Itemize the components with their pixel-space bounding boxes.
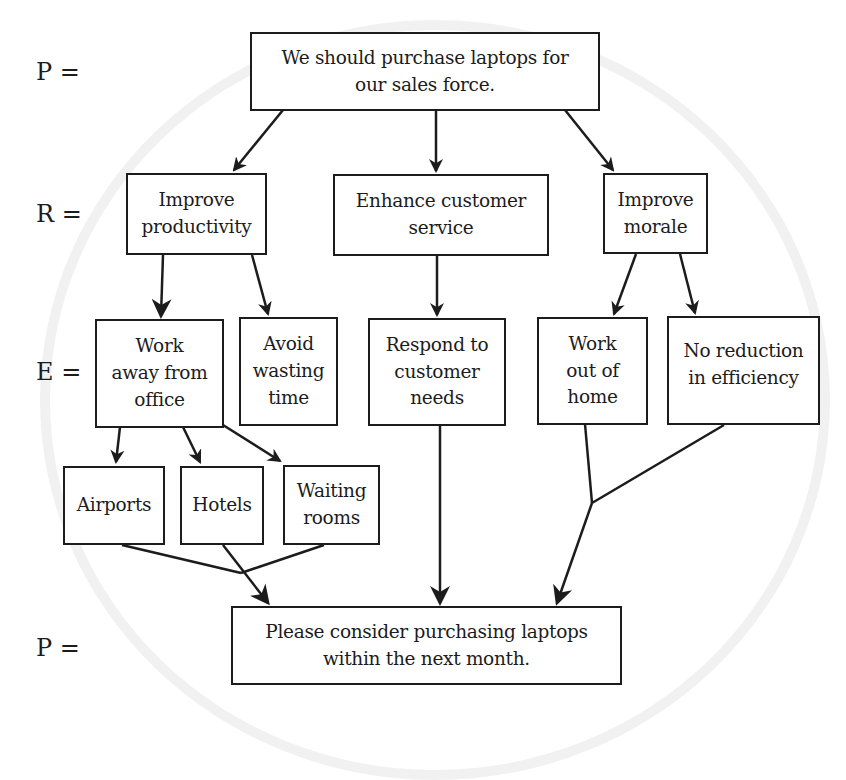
edge-waiting-to-junction: [241, 545, 324, 573]
node-sub-waiting-rooms: Waiting rooms: [283, 465, 380, 545]
edge-morale-to-no-reduction: [680, 254, 695, 313]
node-reason-morale-text: Improve morale: [618, 187, 694, 241]
row-label-premise-top: P =: [36, 58, 80, 86]
node-sub-waiting-rooms-text: Waiting rooms: [297, 478, 366, 532]
row-label-reasons: R =: [36, 200, 82, 228]
edge-work-away-to-waiting: [223, 425, 280, 461]
edge-junction-to-conclusion: [557, 503, 592, 603]
node-evidence-avoid-waste: Avoid wasting time: [239, 317, 338, 426]
node-conclusion: Please consider purchasing laptops withi…: [231, 606, 622, 685]
node-main-point-text: We should purchase laptops for our sales…: [281, 45, 568, 99]
node-reason-service-text: Enhance customer service: [356, 188, 526, 242]
node-evidence-work-away-text: Work away from office: [112, 333, 208, 413]
node-evidence-work-away: Work away from office: [95, 319, 224, 428]
node-reason-service: Enhance customer service: [333, 174, 549, 256]
edge-work-away-to-airports: [116, 427, 120, 462]
node-evidence-no-reduction: No reduction in efficiency: [667, 316, 820, 425]
edge-work-away-to-hotels: [183, 427, 200, 462]
node-evidence-work-home-text: Work out of home: [566, 331, 619, 411]
edge-morale-to-work-home: [614, 254, 636, 314]
node-sub-airports: Airports: [63, 466, 165, 545]
node-evidence-avoid-waste-text: Avoid wasting time: [253, 331, 324, 411]
node-sub-hotels: Hotels: [180, 466, 264, 545]
row-label-evidence: E =: [36, 358, 81, 386]
node-reason-productivity: Improve productivity: [126, 173, 267, 255]
node-evidence-respond: Respond to customer needs: [368, 318, 506, 426]
node-sub-hotels-text: Hotels: [192, 492, 251, 519]
edge-hotels-to-conclusion: [223, 545, 268, 603]
row-label-premise-bottom: P =: [36, 634, 80, 662]
edge-work-home-to-junction: [585, 424, 592, 503]
node-sub-airports-text: Airports: [77, 492, 151, 519]
node-evidence-no-reduction-text: No reduction in efficiency: [684, 338, 804, 392]
edge-no-reduction-to-junction: [592, 425, 724, 503]
edge-productivity-to-work-away: [161, 255, 163, 316]
edge-main-to-morale: [565, 110, 613, 170]
node-evidence-work-home: Work out of home: [537, 317, 648, 425]
edge-airports-to-junction: [122, 545, 241, 573]
node-reason-productivity-text: Improve productivity: [142, 187, 252, 241]
node-main-point: We should purchase laptops for our sales…: [250, 32, 600, 111]
node-conclusion-text: Please consider purchasing laptops withi…: [265, 619, 587, 673]
node-reason-morale: Improve morale: [603, 173, 708, 254]
edge-productivity-to-avoid-waste: [252, 255, 268, 314]
edge-main-to-productivity: [234, 110, 283, 170]
node-evidence-respond-text: Respond to customer needs: [386, 332, 489, 412]
